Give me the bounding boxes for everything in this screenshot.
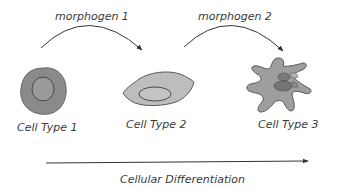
morphogen-1-arrow [41, 25, 142, 50]
cell-type-2-label: Cell Type 2 [126, 118, 187, 131]
cell-type-1-label: Cell Type 1 [17, 121, 78, 134]
cell-type-1-icon [21, 68, 67, 115]
morphogen-1-label: morphogen 1 [55, 10, 129, 23]
cell-type-2-icon [123, 72, 194, 106]
differentiation-arrow [46, 161, 308, 163]
differentiation-diagram: morphogen 1 morphogen 2 Cell Type 1 Cell… [0, 0, 351, 189]
cell-type-3-icon [247, 58, 311, 112]
differentiation-label: Cellular Differentiation [120, 173, 245, 186]
morphogen-2-label: morphogen 2 [198, 10, 272, 23]
morphogen-2-arrow [184, 25, 283, 51]
cell-type-3-label: Cell Type 3 [258, 118, 319, 131]
